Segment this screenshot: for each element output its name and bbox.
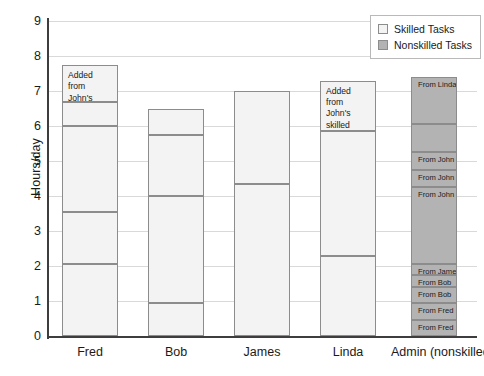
bar-segment[interactable] (62, 264, 118, 336)
bar-segment[interactable] (62, 102, 118, 127)
segment-label: Added from John's skilled tasks (321, 82, 375, 132)
y-tick-label: 2 (11, 260, 41, 273)
segment-label: From John (412, 188, 456, 199)
bar-segment[interactable] (148, 303, 204, 336)
bar-segment[interactable]: From James (411, 264, 457, 275)
bar-segment[interactable] (148, 196, 204, 303)
x-tick-label: Linda (305, 345, 391, 359)
segment-label: From John (412, 153, 456, 164)
bar-segment[interactable] (234, 91, 290, 184)
segment-label: From Fred (412, 304, 456, 315)
bar-james[interactable] (234, 21, 290, 336)
bar-segment[interactable]: Added from John's skilled tasks (320, 81, 376, 132)
bar-segment[interactable]: From John (411, 187, 457, 264)
segment-label: Added from John's skilled tasks (63, 66, 117, 102)
bar-fred[interactable]: Added from John's skilled tasks (62, 21, 118, 336)
bar-segment[interactable] (234, 184, 290, 336)
bar-linda[interactable]: Added from John's skilled tasks (320, 21, 376, 336)
legend-swatch-icon (378, 24, 388, 34)
bar-segment[interactable]: From Linda (411, 77, 457, 124)
x-tick-label: James (219, 345, 305, 359)
chart-container: Hours/day 0123456789 Added from John's s… (0, 0, 484, 376)
y-tick-label: 7 (11, 85, 41, 98)
bar-bob[interactable] (148, 21, 204, 336)
y-axis-title: Hours/day (29, 107, 43, 227)
segment-label: From Bob (412, 288, 456, 299)
bar-segment[interactable]: Added from John's skilled tasks (62, 65, 118, 102)
bar-segment[interactable] (148, 109, 204, 135)
bar-segment[interactable] (411, 124, 457, 152)
segment-label: From John (412, 171, 456, 182)
y-tick-label: 8 (11, 50, 41, 63)
x-tick-label: Admin (nonskilled) (391, 345, 477, 359)
segment-label: From Fred (412, 321, 456, 332)
x-tick-label: Fred (47, 345, 133, 359)
bar-segment[interactable]: From John (411, 152, 457, 170)
legend-swatch-icon (378, 40, 388, 50)
bar-segment[interactable]: From Bob (411, 275, 457, 287)
bar-segment[interactable] (62, 126, 118, 212)
segment-label: From Bob (412, 276, 456, 287)
x-axis-line (47, 336, 477, 338)
legend-item[interactable]: Nonskilled Tasks (378, 37, 472, 53)
y-tick-label: 0 (11, 330, 41, 343)
y-tick-label: 9 (11, 15, 41, 28)
x-tick-label: Bob (133, 345, 219, 359)
x-axis-tick-labels: FredBobJamesLindaAdmin (nonskilled) (47, 342, 477, 370)
bar-segment[interactable] (320, 256, 376, 337)
bar-segment[interactable] (62, 212, 118, 265)
y-tick-label: 1 (11, 295, 41, 308)
segment-label: From Linda (412, 78, 456, 89)
chart-legend: Skilled TasksNonskilled Tasks (370, 15, 481, 59)
bar-segment[interactable]: From John (411, 170, 457, 188)
segment-label: From James (412, 265, 456, 275)
bar-segment[interactable]: From Fred (411, 320, 457, 336)
bar-segment[interactable]: From Bob (411, 287, 457, 303)
bar-segment[interactable] (320, 131, 376, 255)
y-axis-line (47, 18, 49, 339)
bar-admin-nonskilled[interactable]: From FredFrom FredFrom BobFrom BobFrom J… (411, 21, 457, 336)
bar-segment[interactable] (148, 135, 204, 196)
plot-area: Added from John's skilled tasksAdded fro… (47, 21, 477, 336)
legend-label: Nonskilled Tasks (394, 39, 472, 51)
legend-item[interactable]: Skilled Tasks (378, 21, 472, 37)
bar-segment[interactable]: From Fred (411, 303, 457, 321)
legend-label: Skilled Tasks (394, 23, 455, 35)
